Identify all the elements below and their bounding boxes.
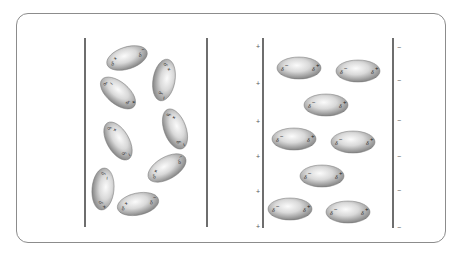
polar-molecule: δδ−+ — [90, 167, 116, 211]
plate-positive-charge: + — [256, 43, 260, 50]
molecule-ellipse — [157, 106, 192, 153]
panel-with-field: ++++++−−−−−−δδ−+δδ−+δδ−+δδ−+δδ−+δδ−+δδ−+… — [256, 38, 401, 231]
polar-molecule: δδ−+ — [300, 165, 344, 187]
charge-sign: − — [285, 62, 289, 68]
charge-sign: − — [308, 170, 312, 176]
polar-molecule: δδ−+ — [95, 71, 141, 115]
partial-charge-label: δ — [272, 207, 275, 213]
plate-positive-charge: + — [256, 223, 260, 230]
charge-sign: − — [280, 133, 284, 139]
partial-charge-label: δ — [308, 103, 311, 109]
charge-sign: + — [339, 170, 343, 176]
partial-charge-label: δ — [371, 69, 374, 75]
plate-positive-charge: + — [256, 118, 260, 125]
polar-molecule: δδ+− — [98, 117, 138, 164]
plate-negative-charge: − — [397, 117, 401, 124]
charge-sign: + — [311, 133, 315, 139]
polar-molecule: δδ−+ — [336, 60, 380, 82]
dipole-diagram: δδ+−δδ+−δδ−+δδ+−δδ+−δδ+−δδ−+δδ+− ++++++−… — [0, 0, 464, 260]
charge-sign: − — [339, 136, 343, 142]
polar-molecule: δδ+− — [143, 148, 190, 188]
partial-charge-label: δ — [340, 69, 343, 75]
polar-molecule: δδ−+ — [331, 131, 375, 153]
polar-molecule: δδ−+ — [304, 94, 348, 116]
partial-charge-label: δ — [335, 174, 338, 180]
charge-sign: + — [343, 99, 347, 105]
polar-molecule: δδ+− — [115, 189, 161, 219]
partial-charge-label: δ — [339, 103, 342, 109]
polar-molecule: δδ+− — [104, 41, 151, 75]
plate-negative-charge: − — [397, 224, 401, 231]
charge-sign: + — [307, 203, 311, 209]
partial-charge-label: δ — [335, 140, 338, 146]
partial-charge-label: δ — [304, 174, 307, 180]
molecule-ellipse — [95, 71, 141, 115]
polar-molecule: δδ+− — [150, 57, 179, 102]
polar-molecule: δδ−+ — [272, 128, 316, 150]
panel-no-field: δδ+−δδ+−δδ−+δδ+−δδ+−δδ+−δδ−+δδ+− — [85, 38, 207, 227]
charge-sign: − — [276, 203, 280, 209]
charge-sign: + — [365, 206, 369, 212]
plate-positive-charge: + — [256, 153, 260, 160]
molecule-ellipse — [143, 148, 190, 188]
polar-molecule: δδ−+ — [277, 57, 321, 79]
charge-sign: + — [370, 136, 374, 142]
plate-negative-charge: − — [397, 44, 401, 51]
partial-charge-label: δ — [303, 207, 306, 213]
partial-charge-label: δ — [276, 137, 279, 143]
partial-charge-label: δ — [307, 137, 310, 143]
plate-negative-charge: − — [397, 187, 401, 194]
charge-sign: + — [316, 62, 320, 68]
plate-negative-charge: − — [397, 77, 401, 84]
plate-positive-charge: + — [256, 188, 260, 195]
polar-molecule: δδ+− — [157, 106, 192, 153]
plate-negative-charge: − — [397, 153, 401, 160]
charge-sign: − — [312, 99, 316, 105]
charge-sign: − — [334, 206, 338, 212]
partial-charge-label: δ — [312, 66, 315, 72]
partial-charge-label: δ — [361, 210, 364, 216]
plate-positive-charge: + — [256, 80, 260, 87]
partial-charge-label: δ — [330, 210, 333, 216]
charge-sign: − — [344, 65, 348, 71]
molecule-ellipse — [98, 117, 138, 164]
partial-charge-label: δ — [366, 140, 369, 146]
polar-molecule: δδ−+ — [326, 201, 370, 223]
partial-charge-label: δ — [281, 66, 284, 72]
molecule-ellipse — [115, 189, 161, 219]
polar-molecule: δδ−+ — [268, 198, 312, 220]
charge-sign: + — [375, 65, 379, 71]
